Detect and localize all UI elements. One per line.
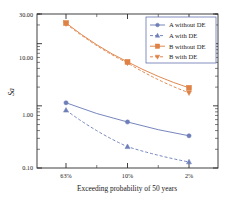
legend-label-2: B without DE [169,43,206,50]
y-tick-label-1: 1.00 [22,111,33,118]
x-tick-label-2: 2% [185,172,193,179]
y-tick-label-30: 30.00 [19,11,33,18]
y-tick-label-10: 10.00 [19,54,33,61]
legend-label-0: A without DE [169,21,206,28]
x-axis-title: Exceeding probability of 50 years [77,184,177,193]
data-point-marker [187,85,192,90]
x-tick-label-10: 10% [122,172,133,179]
legend-label-1: A with DE [169,32,197,39]
chart-svg: 30.00 10.00 1.00 0.10 63% 10% 2% Exceedi… [0,0,234,198]
chart-figure: 30.00 10.00 1.00 0.10 63% 10% 2% Exceedi… [0,0,234,198]
legend-label-3: B with DE [169,53,197,60]
data-point-marker [125,120,129,124]
x-tick-label-63: 63% [60,172,71,179]
legend: A without DEA with DEB without DEB with … [146,17,216,63]
data-point-marker [187,134,191,138]
data-point-marker [64,101,68,105]
y-tick-label-0.1: 0.10 [22,164,33,171]
y-axis-title: Sa [7,88,16,96]
data-point-marker [156,23,160,27]
data-point-marker [155,44,159,48]
